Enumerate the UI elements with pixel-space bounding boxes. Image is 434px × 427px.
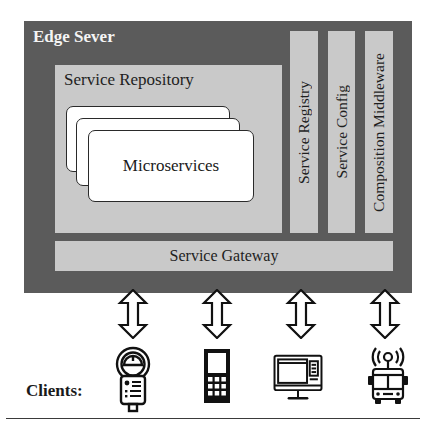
service-config-label: Service Config	[333, 85, 351, 178]
microservice-card-front: Microservices	[88, 130, 254, 202]
service-config-module: Service Config	[328, 31, 355, 233]
bottom-divider	[6, 418, 420, 419]
desktop-computer-icon	[270, 345, 326, 419]
service-repository-title: Service Repository	[64, 70, 194, 90]
bidirectional-arrow-icon	[285, 289, 317, 339]
microservices-label: Microservices	[123, 156, 219, 176]
edge-server-title: Edge Sever	[33, 27, 115, 47]
mobile-phone-icon	[189, 345, 245, 419]
service-gateway-bar: Service Gateway	[55, 241, 393, 271]
bidirectional-arrow-icon	[201, 289, 233, 339]
connected-bus-icon	[360, 345, 416, 419]
bidirectional-arrow-icon	[369, 289, 401, 339]
composition-middleware-module: Composition Middleware	[365, 31, 393, 233]
composition-middleware-label: Composition Middleware	[370, 53, 388, 212]
bidirectional-arrow-icon	[117, 289, 149, 339]
clients-label: Clients:	[26, 381, 83, 401]
service-registry-module: Service Registry	[290, 31, 318, 233]
parking-meter-icon	[105, 345, 161, 419]
service-gateway-label: Service Gateway	[170, 247, 279, 265]
service-registry-label: Service Registry	[295, 81, 313, 184]
